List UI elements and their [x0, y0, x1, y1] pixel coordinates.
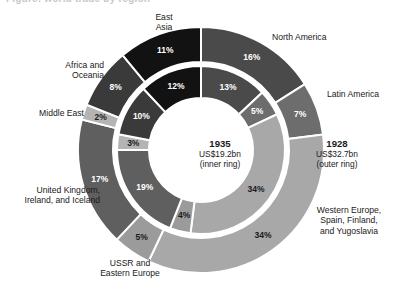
center-inner-ringlabel: (inner ring) — [186, 159, 254, 169]
center-outer-ringlabel: (outer ring) — [300, 159, 374, 169]
value-inner-ussr-and-eastern-europe: 4% — [178, 210, 191, 220]
value-inner-united-kingdom-ireland-and-iceland: 19% — [136, 182, 153, 192]
center-inner-amount: US$19.2bn — [186, 149, 254, 159]
value-outer-western-europe-spain-finland-and-y: 34% — [255, 230, 272, 240]
center-outer-ring-note: 1928 US$32.7bn (outer ring) — [300, 139, 374, 170]
value-outer-east-asia: 11% — [157, 45, 174, 55]
value-outer-latin-america: 7% — [294, 109, 307, 119]
label-ussr: USSR and Eastern Europe — [78, 258, 182, 279]
value-outer-united-kingdom-ireland-and-iceland: 17% — [91, 174, 108, 184]
value-outer-north-america: 16% — [243, 52, 260, 62]
label-africa-oceania: Africa and Oceania — [8, 60, 104, 81]
value-inner-east-asia: 12% — [167, 81, 184, 91]
value-outer-ussr-and-eastern-europe: 5% — [136, 232, 149, 242]
value-inner-north-america: 13% — [219, 82, 236, 92]
center-outer-amount: US$32.7bn — [300, 149, 374, 159]
value-outer-africa-and-oceania: 8% — [110, 82, 123, 92]
value-inner-africa-and-oceania: 10% — [133, 111, 150, 121]
label-united-kingdom: United Kingdom, Ireland, and Iceland — [0, 185, 100, 206]
value-inner-middle-east: 3% — [127, 138, 140, 148]
center-outer-year: 1928 — [300, 139, 374, 149]
figure-root: Figure: world trade by region 16%7%34%5%… — [0, 0, 400, 294]
label-latin-america: Latin America — [327, 89, 400, 99]
value-inner-latin-america: 5% — [251, 106, 264, 116]
center-inner-year: 1935 — [186, 139, 254, 149]
center-inner-ring-note: 1935 US$19.2bn (inner ring) — [186, 139, 254, 170]
label-middle-east: Middle East — [0, 108, 84, 118]
value-inner-western-europe-spain-finland-and-y: 34% — [248, 184, 265, 194]
label-east-asia: East Asia — [128, 12, 200, 33]
label-western-europe: Western Europe, Spain, Finland, and Yugo… — [300, 205, 398, 236]
label-north-america: North America — [272, 32, 396, 42]
